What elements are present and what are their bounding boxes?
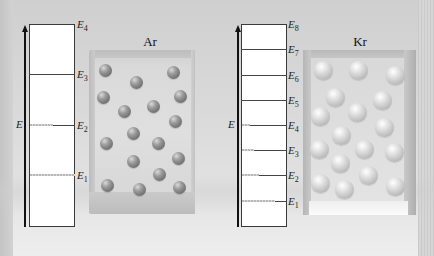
kr-atom	[385, 143, 404, 162]
level-label-e1: E1	[77, 170, 88, 184]
energy-axis-label: E	[228, 118, 235, 130]
ar-atom	[174, 90, 187, 103]
ar-atom	[172, 152, 185, 165]
ar-atom	[101, 179, 114, 192]
energy-level-e6	[241, 75, 287, 76]
level-label-e6: E6	[288, 70, 299, 84]
ar-atom	[127, 127, 140, 140]
energy-level-e3	[29, 74, 75, 75]
ar-title: Ar	[130, 34, 170, 50]
container-left-edge	[89, 50, 95, 214]
populated-level-e3	[242, 149, 254, 151]
kr-atom	[355, 140, 374, 159]
level-label-e8: E8	[288, 19, 299, 33]
container-right-edge	[404, 50, 416, 215]
container-bottom-edge	[309, 201, 408, 215]
container-right-edge	[191, 50, 195, 214]
energy-level-e4	[250, 125, 287, 126]
kr-atom	[359, 166, 378, 185]
energy-level-e7	[241, 49, 287, 50]
ar-atom	[169, 115, 182, 128]
kr-atom	[310, 140, 329, 159]
container-top-edge	[303, 50, 416, 58]
left-margin-strip	[0, 0, 13, 256]
energy-level-e5	[241, 100, 287, 101]
kr-atom	[326, 88, 345, 107]
kr-atom	[386, 66, 405, 85]
energy-level-e2	[259, 175, 287, 176]
level-label-e4: E4	[77, 19, 88, 33]
right-margin-strip	[418, 0, 434, 256]
populated-level-e2	[242, 174, 259, 176]
ar-atom	[147, 100, 160, 113]
ar-atom	[97, 91, 110, 104]
kr-atom	[375, 118, 394, 137]
ar-atom	[153, 168, 166, 181]
ar-atom	[133, 183, 146, 196]
level-label-e1: E1	[288, 196, 299, 210]
ar-atom	[127, 155, 140, 168]
level-label-e2: E2	[288, 170, 299, 184]
container-top-edge	[89, 50, 195, 58]
kr-atom	[311, 174, 330, 193]
populated-level-e2	[30, 124, 53, 126]
container-left-edge	[303, 50, 311, 215]
level-label-e3: E3	[77, 69, 88, 83]
level-label-e7: E7	[288, 44, 299, 58]
kr-atom	[311, 107, 330, 126]
ar-atom	[118, 105, 131, 118]
energy-axis	[24, 30, 26, 227]
kr-atom	[349, 61, 368, 80]
kr-atom	[348, 103, 367, 122]
kr-atom	[386, 177, 405, 196]
arrow-up-icon	[22, 25, 28, 32]
kr-atom	[332, 126, 351, 145]
energy-level-e3	[254, 150, 287, 151]
energy-level-e1	[275, 201, 287, 202]
level-label-e5: E5	[288, 95, 299, 109]
populated-level-e4	[242, 124, 250, 126]
kr-title: Kr	[340, 34, 380, 50]
level-label-e3: E3	[288, 145, 299, 159]
energy-level-e2	[53, 125, 75, 126]
kr-atom	[331, 154, 350, 173]
ar-atom	[130, 76, 143, 89]
ar-atom	[99, 64, 112, 77]
level-label-e4: E4	[288, 120, 299, 134]
populated-level-e1	[242, 200, 275, 202]
ar-atom	[100, 137, 113, 150]
energy-axis-label: E	[16, 118, 23, 130]
ar-atom	[167, 66, 180, 79]
ar-atom	[152, 137, 165, 150]
ar-atom	[173, 181, 186, 194]
energy-axis	[237, 30, 239, 227]
level-label-e2: E2	[77, 120, 88, 134]
populated-level-e1	[30, 174, 75, 176]
kr-atom	[373, 91, 392, 110]
kr-atom	[335, 180, 354, 199]
kr-atom	[314, 61, 333, 80]
